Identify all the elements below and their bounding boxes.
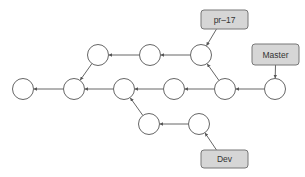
branch-label-text: Dev xyxy=(217,154,233,164)
branch-label-text: Master xyxy=(263,50,289,60)
commit-node-c5[interactable] xyxy=(191,45,212,66)
pointer-pr17 xyxy=(207,29,217,46)
branch-label-master[interactable]: Master xyxy=(252,44,299,65)
commit-node-c6[interactable] xyxy=(114,79,135,100)
edge-c3-to-c2 xyxy=(80,64,92,80)
commit-node-c2[interactable] xyxy=(64,79,85,100)
branch-label-pr17[interactable]: pr–17 xyxy=(201,10,248,29)
commit-node-c1[interactable] xyxy=(13,79,34,100)
commit-node-c9[interactable] xyxy=(265,79,286,100)
edge-c8-to-c5 xyxy=(207,64,219,80)
commit-node-c10[interactable] xyxy=(139,114,160,135)
branch-label-text: pr–17 xyxy=(214,15,236,25)
commit-node-c8[interactable] xyxy=(215,79,236,100)
commit-node-c4[interactable] xyxy=(140,45,161,66)
commit-node-c7[interactable] xyxy=(164,79,185,100)
pointer-dev xyxy=(205,133,216,150)
commit-node-c3[interactable] xyxy=(88,45,109,66)
branch-label-dev[interactable]: Dev xyxy=(201,150,248,168)
commit-graph: pr–17MasterDev xyxy=(0,0,305,177)
commits xyxy=(13,45,286,135)
commit-node-c11[interactable] xyxy=(189,114,210,135)
edge-c10-to-c6 xyxy=(130,98,143,116)
